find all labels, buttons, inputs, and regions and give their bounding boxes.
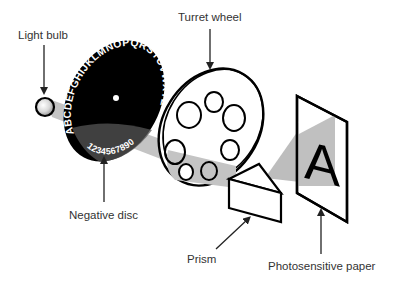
- turret-lens: [223, 105, 245, 131]
- label-photosensitive-paper: Photosensitive paper: [268, 260, 376, 272]
- label-turret-wheel: Turret wheel: [178, 11, 242, 23]
- phototypesetter-diagram: ABCDEFGHIJKLMNOPQRSTUVWXYZ 1234567890 A: [0, 0, 395, 287]
- turret-lens: [177, 102, 201, 128]
- arrow-prism: [216, 219, 248, 249]
- light-bulb: [36, 98, 54, 116]
- photosensitive-paper: A: [297, 96, 347, 222]
- label-negative-disc: Negative disc: [69, 209, 138, 221]
- label-prism: Prism: [187, 253, 216, 265]
- turret-lens: [179, 164, 193, 180]
- projected-letter: A: [304, 129, 340, 199]
- light-bulb-icon: [36, 98, 54, 116]
- label-light-bulb: Light bulb: [18, 29, 68, 41]
- turret-lens: [221, 140, 239, 160]
- disc-center-hole: [113, 95, 119, 101]
